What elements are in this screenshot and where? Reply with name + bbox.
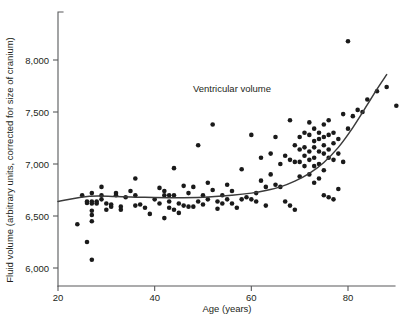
data-point xyxy=(317,149,322,154)
data-point xyxy=(351,114,356,119)
data-point xyxy=(191,204,196,209)
data-point xyxy=(143,205,148,210)
data-point xyxy=(99,197,104,202)
data-point xyxy=(259,155,264,160)
data-point xyxy=(94,201,99,206)
series-annotation-label: Ventricular volume xyxy=(193,83,271,94)
data-point xyxy=(297,160,302,165)
data-point xyxy=(264,185,269,190)
data-point xyxy=(336,137,341,142)
data-point xyxy=(167,205,172,210)
data-point xyxy=(215,206,220,211)
data-point xyxy=(167,193,172,198)
data-point xyxy=(177,211,182,216)
data-point xyxy=(99,185,104,190)
data-point xyxy=(355,108,360,113)
y-tick-label: 7,000 xyxy=(25,159,49,170)
data-point xyxy=(322,143,327,148)
data-point xyxy=(326,195,331,200)
data-point xyxy=(133,203,138,208)
data-point xyxy=(322,122,327,127)
data-point xyxy=(278,162,283,167)
data-point xyxy=(206,180,211,185)
y-axis-group: 6,0006,5007,0007,5008,000 xyxy=(25,12,63,286)
data-point xyxy=(346,126,351,131)
data-point xyxy=(201,202,206,207)
data-point xyxy=(288,203,293,208)
y-tick-label: 6,500 xyxy=(25,211,49,222)
data-point xyxy=(181,184,186,189)
data-point xyxy=(259,178,264,183)
data-point xyxy=(249,133,254,138)
data-points xyxy=(75,39,399,262)
data-point xyxy=(322,193,327,198)
data-point xyxy=(239,167,244,172)
data-point xyxy=(268,172,273,177)
data-point xyxy=(215,199,220,204)
data-point xyxy=(322,135,327,140)
data-point xyxy=(90,257,95,262)
data-point xyxy=(322,151,327,156)
data-point xyxy=(239,197,244,202)
data-point xyxy=(317,137,322,142)
data-point xyxy=(288,158,293,163)
data-point xyxy=(302,153,307,158)
data-point xyxy=(119,207,124,212)
data-point xyxy=(307,133,312,138)
data-point xyxy=(90,191,95,196)
x-tick-label: 60 xyxy=(246,292,257,303)
data-point xyxy=(312,139,317,144)
scatter-plot: 6,0006,5007,0007,5008,000 20406080 Ventr… xyxy=(0,0,406,327)
data-point xyxy=(326,133,331,138)
data-point xyxy=(297,147,302,152)
data-point xyxy=(307,120,312,125)
data-point xyxy=(104,207,109,212)
data-point xyxy=(90,209,95,214)
data-point xyxy=(191,185,196,190)
data-point xyxy=(230,201,235,206)
data-point xyxy=(220,201,225,206)
data-point xyxy=(302,164,307,169)
data-point xyxy=(128,189,133,194)
data-point xyxy=(297,135,302,140)
data-point xyxy=(283,199,288,204)
data-point xyxy=(293,160,298,165)
data-point xyxy=(210,122,215,127)
data-point xyxy=(85,201,90,206)
data-point xyxy=(346,39,351,44)
data-point xyxy=(148,212,153,217)
data-point xyxy=(172,207,177,212)
data-point xyxy=(331,141,336,146)
data-point xyxy=(196,143,201,148)
x-tick-label: 80 xyxy=(343,292,354,303)
data-point xyxy=(162,193,167,198)
y-tick-label: 7,500 xyxy=(25,107,49,118)
x-axis-ticks: 20406080 xyxy=(53,286,354,303)
data-point xyxy=(225,197,230,202)
x-axis-title: Age (years) xyxy=(202,303,251,314)
data-point xyxy=(312,180,317,185)
data-point xyxy=(312,155,317,160)
data-point xyxy=(138,202,143,207)
data-point xyxy=(172,193,177,198)
data-point xyxy=(90,213,95,218)
data-point xyxy=(336,151,341,156)
y-axis-title: Fluid volume (arbitrary units, corrected… xyxy=(4,37,15,283)
data-point xyxy=(254,199,259,204)
data-point xyxy=(341,160,346,165)
data-point xyxy=(312,126,317,131)
data-point xyxy=(293,143,298,148)
data-point xyxy=(394,103,399,108)
data-point xyxy=(384,85,389,90)
data-point xyxy=(322,168,327,173)
data-point xyxy=(162,189,167,194)
data-point xyxy=(210,188,215,193)
data-point xyxy=(317,131,322,136)
data-point xyxy=(90,219,95,224)
x-tick-label: 20 xyxy=(53,292,64,303)
data-point xyxy=(264,203,269,208)
data-point xyxy=(336,187,341,192)
y-axis-line xyxy=(58,12,63,286)
data-point xyxy=(273,135,278,140)
data-point xyxy=(230,189,235,194)
